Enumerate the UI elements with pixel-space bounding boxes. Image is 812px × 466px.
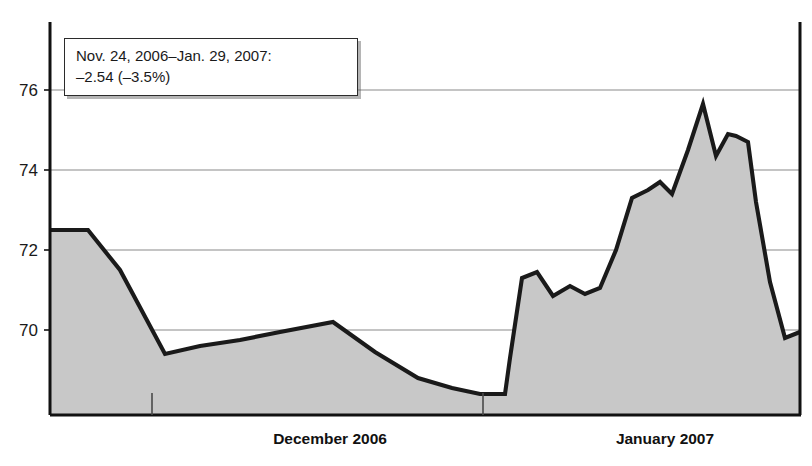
stock-price-chart: 76 74 72 70 December 2006 January 2007 N… [0,0,812,466]
ytick-label-74: 74 [19,161,38,180]
ytick-label-72: 72 [19,241,38,260]
xaxis-label-december-2006: December 2006 [273,430,387,447]
range-callout-box: Nov. 24, 2006–Jan. 29, 2007: –2.54 (–3.5… [64,38,358,96]
ytick-label-76: 76 [19,81,38,100]
range-callout-line-1: Nov. 24, 2006–Jan. 29, 2007: [76,46,347,67]
range-callout-line-2: –2.54 (–3.5%) [76,67,347,88]
ytick-label-70: 70 [19,321,38,340]
xaxis-label-january-2007: January 2007 [616,430,714,447]
